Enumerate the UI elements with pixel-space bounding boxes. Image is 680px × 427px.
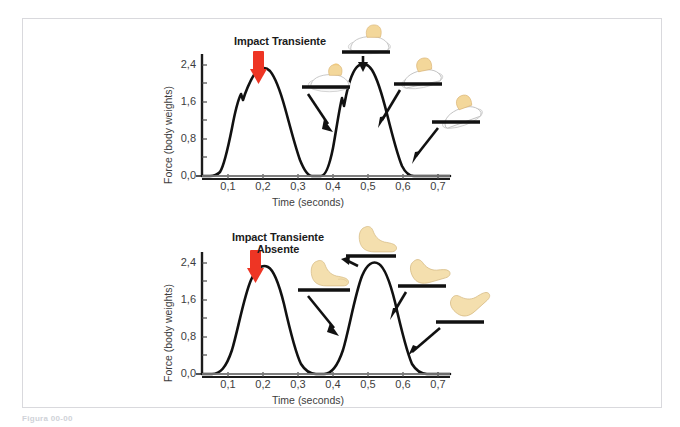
panel-1-title: Impact Transiente [210, 35, 350, 47]
panel-1-ytick-2: 1,6 [172, 95, 196, 107]
panel-1-ytick-3: 2,4 [172, 58, 196, 70]
panel-2-x-axis-label: Time (seconds) [188, 394, 428, 406]
figure-page: Impact Transiente Force (body weights) T… [0, 0, 680, 427]
panel-2-figure-foot-toe-off [408, 278, 491, 356]
figure-caption: Figura 00-00 [22, 414, 73, 423]
panel-1-x-axis-label: Time (seconds) [188, 196, 428, 208]
panel-1-ytick-0: 0,0 [172, 169, 196, 181]
panel-2-figure-foot-midstance [341, 226, 397, 266]
panel-1-xtick-2: 0,3 [285, 180, 311, 192]
panel-2-ytick-3: 2,4 [172, 256, 196, 268]
panel-shod-running: Impact Transiente Force (body weights) T… [150, 24, 570, 214]
panel-2-xtick-3: 0,4 [320, 378, 346, 390]
panel-2-xtick-6: 0,7 [425, 378, 451, 390]
panel-2-ytick-0: 0,0 [172, 367, 196, 379]
panel-2-xtick-2: 0,3 [285, 378, 311, 390]
panel-2-xtick-1: 0,2 [250, 378, 276, 390]
panel-2-xtick-0: 0,1 [215, 378, 241, 390]
panel-2-title: Impact Transiente [208, 231, 348, 243]
panel-2-leader-head-2 [341, 256, 350, 265]
panel-1-xtick-4: 0,5 [355, 180, 381, 192]
panel-1-leader-head-4 [412, 151, 421, 164]
panel-1-xtick-5: 0,6 [390, 180, 416, 192]
panel-1-xtick-6: 0,7 [425, 180, 451, 192]
panel-1-ytick-1: 0,8 [172, 132, 196, 144]
panel-2-xtick-5: 0,6 [390, 378, 416, 390]
panel-1-xtick-3: 0,4 [320, 180, 346, 192]
panel-1-xtick-1: 0,2 [250, 180, 276, 192]
panel-2-title-line2: Absente [208, 243, 348, 255]
panel-2-leader-head-4 [408, 345, 418, 356]
panel-1-figure-shoe-midstance [342, 25, 390, 72]
panel-2-figure-foot-forefoot-strike [298, 260, 350, 336]
panel-2-ytick-1: 0,8 [172, 330, 196, 342]
panel-1-xtick-0: 0,1 [215, 180, 241, 192]
panel-2-figure-foot-push-off [390, 252, 451, 320]
panel-1-figure-shoe-toe-off [412, 91, 485, 164]
panel-barefoot-running: Impact Transiente Absente Force (body we… [150, 222, 570, 412]
panel-2-xtick-4: 0,5 [355, 378, 381, 390]
panel-1-leader-head-3 [378, 116, 386, 128]
panel-2-ytick-2: 1,6 [172, 293, 196, 305]
panel-1-leader-head-2 [358, 62, 368, 72]
panel-1-leader-1 [308, 94, 328, 124]
